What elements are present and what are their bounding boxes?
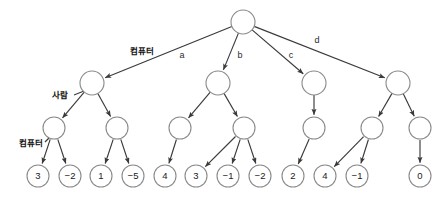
edge-a1-l1 [42, 139, 50, 163]
tier-label-human: 사람 [52, 90, 68, 100]
edge-root-a [105, 26, 232, 77]
node-root[interactable] [231, 10, 255, 34]
tier-labels-group: 컴퓨터사람컴퓨터 [19, 46, 154, 148]
tier-label-computer-top: 컴퓨터 [130, 46, 154, 56]
node-c[interactable] [302, 71, 326, 95]
leaf-8-value: −2 [255, 170, 266, 181]
edge-label-c: c [289, 50, 294, 60]
leaf-10-value: 4 [322, 170, 327, 181]
edge-b-b1 [189, 92, 211, 118]
leaf-7-value: −1 [223, 170, 234, 181]
edge-c1-l9 [298, 139, 309, 164]
node-b[interactable] [206, 71, 230, 95]
node-a[interactable] [80, 71, 104, 95]
node-d[interactable] [386, 71, 410, 95]
node-b1[interactable] [169, 117, 191, 139]
edge-d-d2 [403, 94, 414, 116]
node-a2[interactable] [106, 117, 128, 139]
edge-a1-l2 [58, 139, 66, 163]
node-a1[interactable] [43, 117, 65, 139]
edge-a2-l3 [105, 139, 113, 163]
edge-root-b [223, 33, 238, 70]
leaf-6-value: 3 [193, 170, 198, 181]
edge-a2-l4 [121, 139, 129, 163]
edge-root-d [254, 26, 385, 77]
leaf-9-value: 2 [290, 170, 295, 181]
edge-root-c [252, 30, 303, 74]
tier-label-computer-bottom: 컴퓨터 [19, 138, 43, 148]
leaf-4-value: −5 [128, 170, 139, 181]
leaf-5-value: 4 [162, 170, 167, 181]
edge-d1-l10 [334, 137, 363, 167]
edge-b2-l8 [248, 139, 256, 163]
edge-d-d1 [379, 93, 392, 116]
leaf-2-value: −2 [65, 170, 76, 181]
leaf-11-value: −1 [352, 170, 363, 181]
leaf-nodes-group: 3−21−543−1−224−10 [27, 165, 431, 187]
game-tree-diagram: 3−21−543−1−224−10 abcd 컴퓨터사람컴퓨터 [0, 0, 448, 202]
tree-svg-canvas: 3−21−543−1−224−10 abcd 컴퓨터사람컴퓨터 [0, 0, 448, 202]
edge-d1-l11 [361, 139, 368, 163]
edge-b-b2 [224, 93, 237, 116]
edge-label-a: a [179, 50, 184, 60]
edge-b2-l6 [205, 136, 235, 166]
edge-b2-l7 [232, 139, 240, 163]
edge-label-d: d [314, 35, 319, 45]
edge-label-b: b [237, 50, 242, 60]
connector-computer-bottom [45, 138, 49, 142]
leaf-12-value: 0 [417, 170, 422, 181]
edge-a-a2 [98, 93, 111, 116]
leaf-3-value: 1 [98, 170, 103, 181]
node-c1[interactable] [303, 117, 325, 139]
node-d2[interactable] [409, 117, 431, 139]
edges-group [42, 26, 420, 166]
internal-nodes-group [43, 10, 431, 139]
edge-b1-l5 [169, 139, 176, 163]
node-b2[interactable] [233, 117, 255, 139]
node-d1[interactable] [361, 117, 383, 139]
leaf-1-value: 3 [35, 170, 40, 181]
